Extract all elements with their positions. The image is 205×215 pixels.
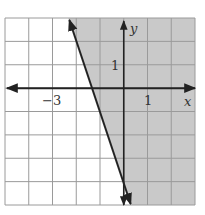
tick-label-x-neg3: −3 <box>42 93 61 108</box>
x-axis-label: x <box>184 94 192 109</box>
tick-label-x-1: 1 <box>144 93 152 108</box>
tick-label-y-1: 1 <box>111 58 119 73</box>
inequality-graph: −3 1 1 x y <box>0 0 205 215</box>
y-axis-label: y <box>129 21 138 36</box>
